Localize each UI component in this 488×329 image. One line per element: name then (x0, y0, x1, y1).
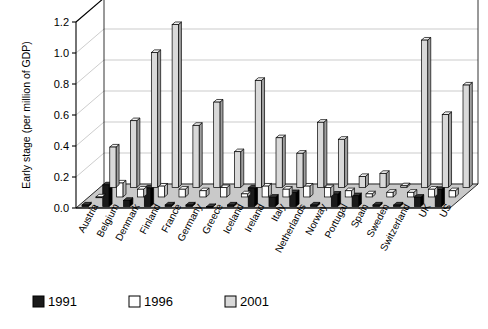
y-axis-title: Early stage (per million of GDP) (20, 41, 32, 189)
bar (463, 85, 469, 187)
bar (276, 138, 282, 188)
chart-container: 0.00.20.40.60.81.01.2 AustriaBelgiumDenm… (0, 0, 488, 329)
bar (318, 122, 324, 187)
bar (366, 194, 372, 197)
legend-label: 1996 (144, 294, 173, 309)
bar (297, 153, 303, 187)
bar (324, 188, 330, 197)
legend-swatch (33, 296, 44, 307)
bar (158, 186, 164, 197)
y-tick-label: 1.0 (54, 47, 69, 59)
y-tick-label: 0.2 (54, 171, 69, 183)
chart-legend: 199119962001 (33, 294, 269, 309)
bar (414, 197, 420, 206)
bar (131, 121, 137, 188)
y-tick-labels: 0.00.20.40.60.81.01.2 (54, 16, 69, 214)
legend-swatch (225, 296, 236, 307)
y-tick-label: 0.4 (54, 140, 69, 152)
bar (172, 25, 178, 188)
bar (248, 188, 254, 207)
bar (345, 191, 351, 197)
bar (304, 186, 310, 197)
legend-label: 1991 (48, 294, 77, 309)
y-axis-title-text: Early stage (per million of GDP) (20, 41, 32, 189)
bar (179, 189, 185, 197)
bar (359, 177, 365, 188)
bar (96, 197, 102, 198)
bar (234, 152, 240, 188)
y-tick-label: 0.0 (54, 202, 69, 214)
y-tick-label: 1.2 (54, 16, 69, 28)
y-tick-label: 0.6 (54, 109, 69, 121)
bar (110, 147, 116, 187)
bar (449, 191, 455, 197)
bar (352, 196, 358, 207)
bar (269, 197, 275, 206)
bar (442, 115, 448, 188)
bar (193, 125, 199, 187)
legend-label: 2001 (240, 294, 269, 309)
bar (401, 186, 407, 188)
bar (200, 191, 206, 197)
bar (151, 53, 157, 188)
bar (421, 40, 427, 187)
bar (241, 194, 247, 197)
bar (338, 139, 344, 187)
bar (283, 189, 289, 197)
y-tick-label: 0.8 (54, 78, 69, 90)
category-labels: AustriaBelgiumDenmarkFinlandFranceGerman… (76, 201, 454, 255)
bar (428, 189, 434, 197)
bar (137, 189, 143, 197)
bar (387, 192, 393, 197)
bar (214, 102, 220, 187)
bar (408, 192, 414, 197)
bar (262, 186, 268, 197)
bar (380, 173, 386, 187)
legend-swatch (129, 296, 140, 307)
bar (255, 80, 261, 187)
bar (221, 188, 227, 197)
bar-chart-3d: 0.00.20.40.60.81.01.2 AustriaBelgiumDenm… (0, 0, 488, 329)
